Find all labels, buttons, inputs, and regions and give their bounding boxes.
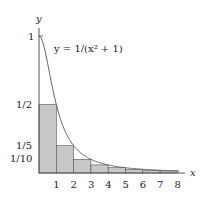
function-label: y = 1/(x² + 1): [53, 43, 123, 54]
rectangle: [56, 146, 73, 173]
x-tick-label: 3: [88, 179, 94, 190]
y-tick-label-tenth: 1/10: [10, 153, 32, 164]
x-tick-label: 1: [53, 179, 59, 190]
x-tick-label: 8: [174, 179, 180, 190]
y-tick-label-half: 1/2: [16, 99, 32, 110]
x-tick-label: 4: [105, 179, 111, 190]
x-tick-label: 5: [123, 179, 129, 190]
rectangle: [126, 169, 143, 173]
x-tick-label: 7: [157, 179, 163, 190]
x-tick-label: 6: [140, 179, 146, 190]
rectangle: [74, 159, 91, 173]
rectangle: [91, 165, 108, 173]
rectangles: [39, 105, 177, 174]
x-tick-label: 2: [71, 179, 77, 190]
riemann-sum-diagram: y x y = 1/(x² + 1) 1 1/2 1/5 1/10 123456…: [0, 0, 205, 200]
x-tick-labels: 12345678: [53, 179, 180, 190]
x-axis-label: x: [190, 167, 196, 178]
y-tick-label-fifth: 1/5: [16, 140, 32, 151]
rectangle: [39, 105, 56, 174]
y-axis-label: y: [35, 13, 42, 24]
rectangle: [108, 168, 125, 173]
y-tick-label-1: 1: [28, 31, 34, 42]
